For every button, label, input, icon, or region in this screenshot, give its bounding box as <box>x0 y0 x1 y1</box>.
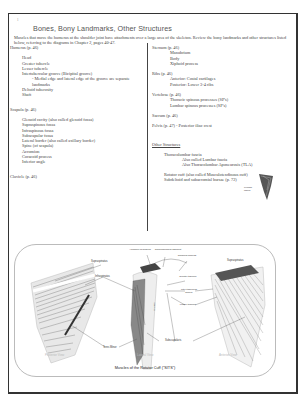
label-greater-tubercle: Greater tubercle <box>177 275 199 278</box>
section-vertebrae: Vertebrae (p. 46) Thoracic spinous proce… <box>152 92 284 108</box>
label-subscapularis: Subscapularis <box>165 339 181 342</box>
section-heading: Clavicle (p. 46) <box>10 174 146 179</box>
section-ribs: Ribs (p. 46) Anterior: Costal cartilages… <box>152 71 284 87</box>
label-infraspinatus: Infraspinatus <box>95 275 110 278</box>
section-sacrum: Sacrum (p. 46) <box>152 113 284 118</box>
page-number: 1 <box>17 18 19 22</box>
section-heading: Pelvis (p. 47) - Posterior iliac crest <box>152 123 284 128</box>
list-item: Lumbar spinous processes (SP's) <box>152 103 284 108</box>
posterior-view-label: Posterior View <box>45 353 64 357</box>
list-item: Xiphoid process <box>152 61 284 66</box>
section-scapula: Scapula (p. 46) Glenoid cavity (also cal… <box>10 107 146 165</box>
rotator-cuff-illustration <box>15 245 277 378</box>
section-clavicle: Clavicle (p. 46) <box>10 174 146 179</box>
label-supraspinatus-anterior: Supraspinatus <box>227 259 244 262</box>
right-column: Sternum (p. 46) Manubrium Body Xiphoid p… <box>152 45 284 187</box>
lateral-view-label: Lateral View <box>137 353 153 357</box>
label-coracoacromial-ligament: Coracoacromial ligament <box>151 248 185 251</box>
figure-caption: Muscles of the Rotator Cuff ("SITS") <box>15 366 275 370</box>
section-heading: Sacrum (p. 46) <box>152 113 284 118</box>
rotator-cuff-figure: Supraspinatus Infraspinatus Teres Minor … <box>14 244 276 377</box>
page-title: Bones, Bony Landmarks, Other Structures <box>33 24 172 33</box>
label-supraspinatus-posterior: Supraspinatus <box>91 260 108 263</box>
left-column: Humerus (p. 46) Head Greater tubercle Le… <box>10 45 146 184</box>
label-coracoid-process: Coracoid process <box>175 254 199 257</box>
anterior-view-label: Anterior View <box>219 353 237 357</box>
lumbar-fascia-label: Lumbar fascia <box>244 186 254 192</box>
list-item: Shaft <box>10 92 146 97</box>
intro-paragraph: Muscles that move the humerus at the sho… <box>14 35 294 46</box>
list-item: Inferior angle <box>10 159 146 164</box>
label-scapula: Scapula <box>153 303 156 311</box>
section-pelvis: Pelvis (p. 47) - Posterior iliac crest <box>152 123 284 128</box>
column-divider <box>147 43 148 231</box>
section-sternum: Sternum (p. 46) Manubrium Body Xiphoid p… <box>152 45 284 66</box>
lumbar-fascia-illustration <box>255 172 277 204</box>
label-lesser-tubercle: Lesser tubercle <box>177 303 199 306</box>
label-teres-minor: Teres Minor <box>103 346 117 349</box>
section-humerus: Humerus (p. 46) Head Greater tubercle Le… <box>10 45 146 98</box>
label-intertubercular-groove: Inter-tubercular groove <box>177 288 201 294</box>
list-item: Posterior: Lower 3-4 ribs <box>152 82 284 87</box>
list-note: - Medial edge and lateral edge of the gr… <box>10 76 146 87</box>
